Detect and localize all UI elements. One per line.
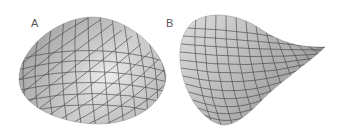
panel-b-saddle: B [0,0,345,139]
panel-label-b: B [166,18,173,29]
